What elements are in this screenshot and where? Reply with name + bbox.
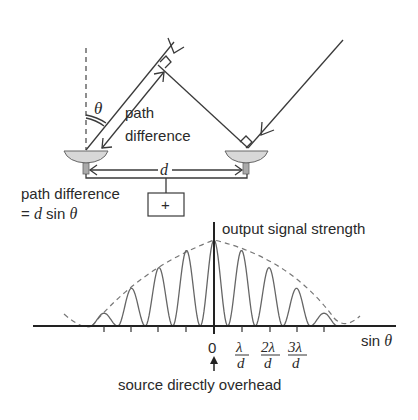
theta-arc	[86, 118, 104, 126]
path-difference-label-2: difference	[125, 127, 191, 144]
overhead-arrowhead	[210, 356, 218, 364]
fringe-plot: output signal strength sin θ 0 λ d 2λ d …	[33, 220, 396, 393]
svg-text:d: d	[237, 355, 245, 371]
y-axis-label: output signal strength	[222, 220, 365, 237]
theta-label: θ	[94, 99, 102, 118]
right-ray-arrowhead	[261, 122, 274, 135]
envelope-curve	[64, 240, 360, 327]
svg-text:2λ: 2λ	[261, 339, 276, 355]
x-axis-label: sin θ	[361, 332, 392, 349]
formula-line1: path difference	[21, 185, 120, 202]
interferometer-diagram: θ path difference d + path difference = …	[0, 0, 418, 420]
tick-label-0: 0	[208, 339, 216, 356]
tick-label-3: 3λ d	[287, 339, 307, 371]
tick-label-2: 2λ d	[261, 339, 280, 371]
left-ray-arrowhead	[168, 38, 184, 53]
path-difference-label: path	[125, 104, 154, 121]
combiner-plus: +	[161, 196, 170, 213]
svg-text:d: d	[292, 355, 300, 371]
svg-text:3λ: 3λ	[287, 339, 303, 355]
right-incoming-ray	[248, 40, 343, 148]
svg-text:d: d	[264, 355, 272, 371]
annotation-source-overhead: source directly overhead	[118, 376, 281, 393]
tick-label-1: λ d	[235, 339, 249, 371]
separation-label: d	[160, 161, 169, 178]
svg-text:λ: λ	[235, 339, 243, 355]
formula-line2: = d sin θ	[21, 205, 77, 222]
